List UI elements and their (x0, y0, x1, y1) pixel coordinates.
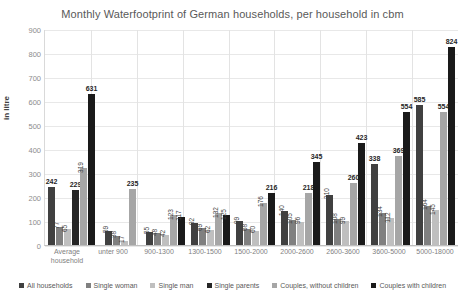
y-axis-tick-label: 900 (11, 26, 41, 35)
bar[interactable]: 62 (207, 230, 214, 245)
bar[interactable]: 423 (358, 143, 365, 245)
y-axis-tick-label: 700 (11, 74, 41, 83)
legend-item[interactable]: Single woman (86, 282, 138, 289)
x-axis-label: 1300-1500 (182, 248, 228, 266)
x-axis-label: 900-1300 (136, 248, 182, 266)
bar[interactable]: 17 (121, 241, 128, 245)
y-axis-tick-label: 600 (11, 98, 41, 107)
bar-value-label: 38 (110, 231, 117, 238)
bar-value-label: 140 (278, 205, 285, 216)
bar-value-label: 145 (429, 204, 436, 215)
bar-group: 593817235 (98, 30, 143, 245)
bar[interactable]: 319 (80, 168, 87, 245)
legend-swatch-icon (207, 283, 212, 288)
bar-group: 338134112369554 (368, 30, 413, 245)
bar[interactable]: 125 (223, 215, 230, 245)
bar[interactable]: 260 (350, 183, 357, 245)
bar[interactable]: 42 (162, 235, 169, 245)
bar[interactable]: 229 (72, 190, 79, 245)
bar-value-label: 210 (323, 188, 330, 199)
legend-swatch-icon (150, 283, 155, 288)
bar-value-label: 235 (127, 180, 139, 187)
bar-value-label: 92 (188, 218, 195, 225)
bar-value-label: 345 (311, 153, 323, 160)
bar-value-label: 112 (384, 212, 391, 222)
x-axis-label: 2000-2600 (274, 248, 320, 266)
plot-area: 9008007006005004003002001000 24277652293… (44, 30, 458, 246)
bar[interactable]: 96 (297, 222, 304, 245)
legend-label: Single parents (215, 282, 260, 289)
chart-title: Monthly Waterfootprint of German househo… (0, 8, 465, 20)
legend-label: Single woman (94, 282, 138, 289)
bar-value-label: 48 (151, 229, 158, 236)
bar[interactable]: 631 (88, 94, 95, 245)
bar-value-label: 216 (266, 184, 278, 191)
legend-item[interactable]: Single man (150, 282, 193, 289)
bar-value-label: 164 (421, 199, 428, 210)
bar[interactable]: 554 (403, 112, 410, 245)
bar-value-label: 17 (118, 236, 125, 243)
legend-label: Couples, without children (280, 282, 358, 289)
bar[interactable]: 112 (387, 218, 394, 245)
y-axis-tick-label: 400 (11, 146, 41, 155)
bar[interactable]: 554 (440, 112, 447, 245)
bar-value-label: 96 (294, 217, 301, 224)
bar[interactable]: 60 (252, 231, 259, 245)
bar-value-label: 60 (249, 226, 256, 233)
bar-group: 14010596218345 (278, 30, 323, 245)
bar-value-label: 125 (220, 209, 227, 220)
y-axis-tick-label: 500 (11, 122, 41, 131)
legend-item[interactable]: Couples, without children (272, 282, 358, 289)
bar-group: 926962132125 (188, 30, 233, 245)
y-axis-tick-label: 200 (11, 194, 41, 203)
bar[interactable]: 235 (129, 189, 136, 245)
x-axis-label: 5000-18000 (412, 248, 458, 266)
bar-value-label: 631 (86, 85, 98, 92)
bar-value-label: 99 (233, 217, 240, 224)
chart-legend: All householdsSingle womanSingle manSing… (0, 282, 465, 289)
bar-value-label: 108 (331, 213, 338, 224)
bar[interactable]: 216 (268, 193, 275, 245)
bar[interactable]: 145 (432, 210, 439, 245)
bar[interactable]: 65 (64, 229, 71, 245)
y-axis-tick-label: 300 (11, 170, 41, 179)
bar-group: 554842123117 (143, 30, 188, 245)
bar[interactable]: 99 (342, 221, 349, 245)
legend-item[interactable]: Couples with children (371, 282, 446, 289)
bar[interactable]: 117 (178, 217, 185, 245)
bar-value-label: 554 (401, 103, 413, 110)
bar-value-label: 42 (159, 230, 166, 237)
bar-group: 21010899260423 (323, 30, 368, 245)
bar-value-label: 62 (204, 226, 211, 233)
x-axis-label: Average household (44, 248, 90, 266)
bar-value-label: 123 (167, 209, 174, 220)
bar-value-label: 55 (143, 227, 150, 234)
legend-item[interactable]: Single parents (207, 282, 260, 289)
x-axis-label: unter 900 (90, 248, 136, 266)
bar[interactable]: 824 (448, 47, 455, 245)
legend-swatch-icon (86, 283, 91, 288)
bar-value-label: 585 (414, 96, 426, 103)
bar-value-label: 338 (369, 155, 381, 162)
chart-container: Monthly Waterfootprint of German househo… (0, 0, 465, 300)
bar-value-label: 117 (175, 211, 182, 221)
bar[interactable]: 176 (260, 203, 267, 245)
bar[interactable]: 369 (395, 156, 402, 245)
bar[interactable]: 345 (313, 162, 320, 245)
bar-value-label: 824 (446, 38, 458, 45)
bar-value-label: 132 (212, 207, 219, 218)
bar[interactable]: 585 (416, 105, 423, 245)
x-axis-label: 2600-3600 (320, 248, 366, 266)
legend-label: Couples with children (379, 282, 446, 289)
bar-group: 996860176216 (233, 30, 278, 245)
bar[interactable]: 218 (305, 193, 312, 245)
bar-groups: 2427765229319631593817235554842123117926… (45, 30, 458, 245)
legend-swatch-icon (371, 283, 376, 288)
bar-value-label: 105 (286, 213, 293, 224)
bar-group: 2427765229319631 (45, 30, 98, 245)
x-axis-labels: Average householdunter 900900-13001300-1… (44, 248, 458, 266)
bar[interactable]: 242 (48, 187, 55, 245)
legend-swatch-icon (272, 283, 277, 288)
bar[interactable]: 338 (371, 164, 378, 245)
legend-item[interactable]: All households (19, 282, 73, 289)
